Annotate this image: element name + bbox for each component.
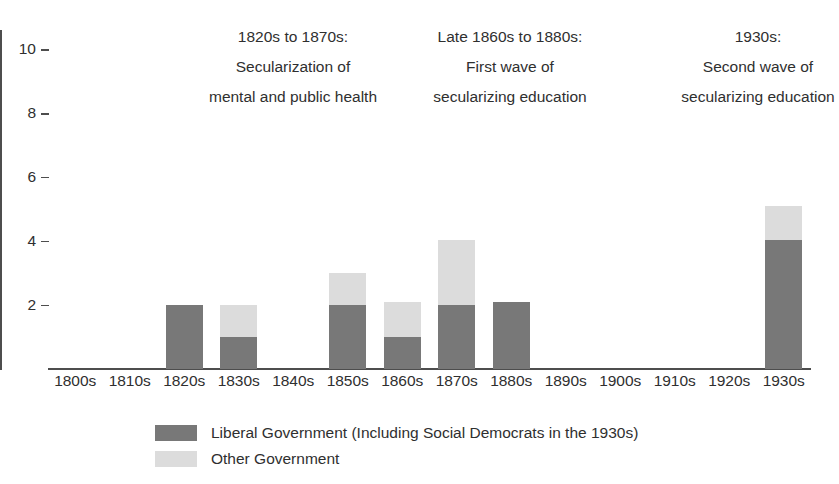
x-axis-tick-label: 1850s bbox=[317, 372, 379, 390]
y-axis-tick-label: 10 bbox=[2, 40, 36, 58]
y-axis-tick-label: 4 bbox=[2, 232, 36, 250]
bar-group bbox=[166, 305, 203, 369]
bar-segment bbox=[438, 305, 475, 369]
x-axis-tick-label: 1930s bbox=[753, 372, 815, 390]
bar-segment bbox=[384, 337, 421, 369]
legend-swatch bbox=[155, 451, 197, 467]
bar-segment bbox=[329, 305, 366, 369]
chart-legend: Liberal Government (Including Social Dem… bbox=[155, 420, 638, 472]
x-axis-tick-label: 1880s bbox=[480, 372, 542, 390]
plot-area bbox=[48, 30, 810, 369]
bar-segment bbox=[220, 305, 257, 337]
y-axis-tick-label: 6 bbox=[2, 168, 36, 186]
y-axis-tick-label: 2 bbox=[2, 296, 36, 314]
bar-group bbox=[493, 302, 530, 369]
bar-segment bbox=[166, 305, 203, 369]
x-axis-tick-label: 1800s bbox=[44, 372, 106, 390]
bar-segment bbox=[329, 273, 366, 305]
bar-group bbox=[438, 240, 475, 369]
bar-group bbox=[765, 206, 802, 369]
x-axis-tick-label: 1870s bbox=[426, 372, 488, 390]
x-axis-tick-label: 1810s bbox=[99, 372, 161, 390]
bar-segment bbox=[384, 302, 421, 337]
legend-item: Liberal Government (Including Social Dem… bbox=[155, 420, 638, 446]
bar-segment bbox=[765, 240, 802, 369]
y-axis-line bbox=[0, 30, 2, 370]
legend-item: Other Government bbox=[155, 446, 638, 472]
legend-swatch bbox=[155, 425, 197, 441]
bar-segment bbox=[493, 302, 530, 369]
bar-group bbox=[384, 302, 421, 369]
x-axis-tick-label: 1900s bbox=[589, 372, 651, 390]
x-axis-tick-label: 1920s bbox=[698, 372, 760, 390]
bar-group bbox=[220, 305, 257, 369]
x-axis-tick-label: 1840s bbox=[262, 372, 324, 390]
bar-segment bbox=[220, 337, 257, 369]
x-axis-tick-label: 1910s bbox=[644, 372, 706, 390]
x-axis-tick-label: 1820s bbox=[153, 372, 215, 390]
bar-group bbox=[329, 273, 366, 369]
bar-segment bbox=[765, 206, 802, 240]
x-axis-tick-label: 1860s bbox=[371, 372, 433, 390]
y-axis-tick-label: 8 bbox=[2, 104, 36, 122]
x-axis-tick-label: 1830s bbox=[208, 372, 270, 390]
x-axis-tick-label: 1890s bbox=[535, 372, 597, 390]
legend-label: Other Government bbox=[211, 450, 339, 468]
bar-segment bbox=[438, 240, 475, 305]
legend-label: Liberal Government (Including Social Dem… bbox=[211, 424, 638, 442]
